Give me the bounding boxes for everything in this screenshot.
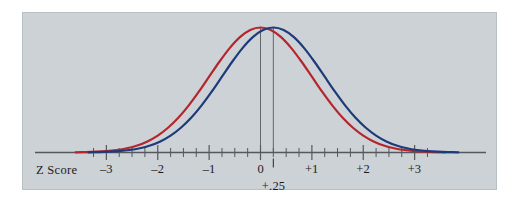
axis-tick-label: –2: [151, 163, 164, 176]
annotation-label-plus-quarter: +.25: [262, 179, 285, 194]
chart-plot-area: [0, 0, 519, 209]
axis-tick-label: +3: [408, 163, 422, 176]
axis-tick-label: –1: [203, 163, 216, 176]
axis-tick-label: 0: [258, 163, 264, 176]
peak-drop-line-group: [261, 28, 274, 153]
z-score-distribution-figure: Z Score –3–2–10+1+2+3 +.25: [0, 0, 519, 209]
axis-tick-label: –3: [100, 163, 113, 176]
axis-title-z-score: Z Score: [36, 163, 77, 178]
axis-tick-label: +2: [356, 163, 370, 176]
axis-tick-label: +1: [305, 163, 319, 176]
